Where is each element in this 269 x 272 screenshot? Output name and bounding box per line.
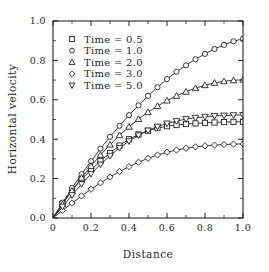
marker-square: [70, 37, 75, 42]
y-tick-label: 0.8: [30, 55, 46, 66]
legend-label: Time = 3.0: [84, 68, 143, 79]
marker-square: [212, 120, 217, 125]
marker-circle: [126, 113, 131, 118]
legend-label: Time = 0.5: [84, 34, 143, 45]
marker-circle: [98, 146, 103, 151]
x-tick-label: 0.6: [159, 222, 175, 233]
marker-circle: [221, 42, 226, 47]
y-tick-label: 1.0: [30, 15, 46, 26]
legend-label: Time = 2.0: [84, 57, 143, 68]
chart-figure: 00.20.40.60.81.0 0.00.20.40.60.81.0 Dist…: [0, 0, 269, 272]
marker-square: [231, 119, 236, 124]
x-tick-label: 0.2: [83, 222, 99, 233]
y-tick-label: 0.6: [30, 94, 46, 105]
y-tick-label: 0.2: [30, 173, 46, 184]
marker-circle: [107, 134, 112, 139]
x-tick-label: 0.4: [121, 222, 137, 233]
x-tick-label: 1.0: [235, 222, 251, 233]
marker-circle: [117, 123, 122, 128]
y-tick-label: 0.4: [30, 134, 46, 145]
marker-circle: [136, 103, 141, 108]
marker-circle: [193, 57, 198, 62]
marker-circle: [183, 63, 188, 68]
marker-circle: [174, 69, 179, 74]
marker-square: [202, 120, 207, 125]
y-tick-label: 0.0: [30, 212, 46, 223]
x-tick-label: 0: [50, 222, 56, 233]
marker-circle: [155, 85, 160, 90]
legend-label: Time = 5.0: [84, 80, 143, 91]
x-tick-label: 0.8: [197, 222, 213, 233]
x-axis-title: Distance: [123, 248, 174, 260]
marker-circle: [70, 48, 75, 53]
marker-circle: [231, 39, 236, 44]
legend-label: Time = 1.0: [84, 45, 143, 56]
marker-circle: [145, 93, 150, 98]
marker-circle: [212, 46, 217, 51]
marker-circle: [202, 51, 207, 56]
y-axis-title: Horizontal velocity: [6, 64, 18, 174]
marker-circle: [164, 77, 169, 82]
line-chart: 00.20.40.60.81.0 0.00.20.40.60.81.0 Dist…: [0, 0, 269, 272]
marker-square: [221, 119, 226, 124]
